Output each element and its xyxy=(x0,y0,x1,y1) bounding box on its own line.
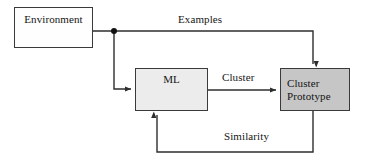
node-ml[interactable]: ML xyxy=(135,68,208,111)
node-cluster-prototype-label: Cluster Prototype xyxy=(287,77,331,103)
edge-environment-to-ml-path xyxy=(114,31,131,89)
edge-label-cluster: Cluster xyxy=(222,71,254,83)
node-environment-label: Environment xyxy=(24,13,83,26)
edge-examples-path xyxy=(93,31,313,64)
node-ml-label: ML xyxy=(163,73,180,86)
diagram-canvas: Environment ML Cluster Prototype Example… xyxy=(0,0,365,162)
node-cluster-prototype[interactable]: Cluster Prototype xyxy=(280,68,350,111)
edge-label-examples: Examples xyxy=(178,13,222,25)
junction-dot xyxy=(111,28,117,34)
edge-label-similarity: Similarity xyxy=(224,130,269,142)
node-environment[interactable]: Environment xyxy=(14,7,93,48)
